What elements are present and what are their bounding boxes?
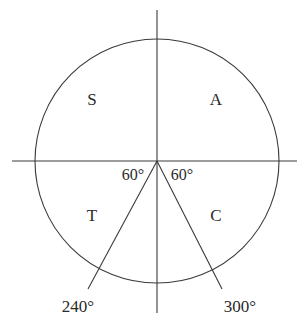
unit-circle-diagram (0, 0, 305, 324)
ray-label-300: 300° (224, 298, 256, 315)
ray-label-240: 240° (62, 298, 94, 315)
quadrant-label-t: T (87, 207, 97, 224)
angle-label-left-60: 60° (122, 167, 144, 183)
cast-unit-circle-figure: S A T C 60° 60° 240° 300° (0, 0, 305, 324)
quadrant-label-c: C (210, 207, 221, 224)
quadrant-label-s: S (87, 91, 96, 108)
angle-label-right-60: 60° (171, 167, 193, 183)
quadrant-label-a: A (210, 91, 222, 108)
